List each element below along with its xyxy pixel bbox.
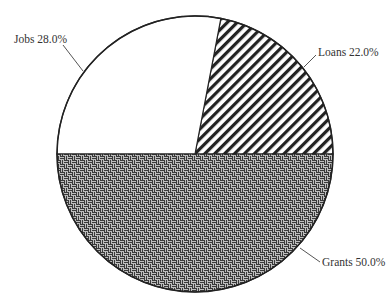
label-grants: Grants 50.0% bbox=[322, 256, 386, 268]
pie-slices bbox=[57, 16, 333, 292]
label-loans: Loans 22.0% bbox=[318, 46, 379, 58]
slice-jobs bbox=[57, 16, 221, 154]
leader-line-grants bbox=[300, 248, 320, 262]
slice-grants bbox=[57, 154, 333, 292]
leader-line-jobs bbox=[63, 45, 83, 71]
pie-chart: Jobs 28.0% Loans 22.0% Grants 50.0% bbox=[0, 0, 392, 300]
leader-line-loans bbox=[304, 55, 316, 67]
label-jobs: Jobs 28.0% bbox=[14, 33, 67, 45]
